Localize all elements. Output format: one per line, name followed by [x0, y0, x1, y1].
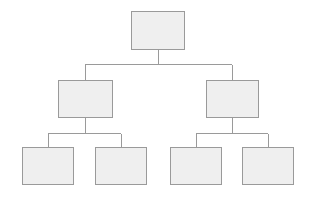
node-root[interactable] [131, 11, 185, 50]
node-leaf-2[interactable] [95, 147, 147, 185]
node-leaf-4[interactable] [242, 147, 294, 185]
node-leaf-1[interactable] [22, 147, 74, 185]
node-branch-left[interactable] [58, 80, 113, 118]
node-leaf-3[interactable] [170, 147, 222, 185]
org-chart-diagram [0, 0, 315, 201]
node-branch-right[interactable] [206, 80, 259, 118]
